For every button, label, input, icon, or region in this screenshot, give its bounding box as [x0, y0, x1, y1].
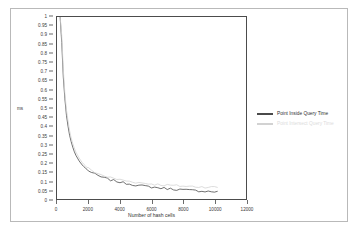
series-line — [60, 17, 218, 192]
plot-area — [56, 16, 247, 200]
y-tick-mark — [49, 62, 53, 63]
y-tick-label: 0.8 — [41, 50, 47, 55]
y-tick-mark — [49, 108, 53, 109]
y-tick-mark — [49, 34, 53, 35]
y-tick-label: 0.7 — [41, 69, 47, 74]
x-axis: 020004000600080001000012000 — [56, 200, 247, 222]
legend-item[interactable]: Point Inside Query Time — [257, 109, 349, 119]
x-tick-mark — [152, 200, 153, 204]
x-axis-title: Number of hash cells — [56, 212, 247, 218]
y-tick-mark — [49, 25, 53, 26]
y-tick-mark — [49, 117, 53, 118]
y-tick-label: 0.9 — [41, 32, 47, 37]
y-tick-label: 0.95 — [38, 23, 47, 28]
y-tick-label: 0.15 — [38, 170, 47, 175]
x-tick-mark — [56, 200, 57, 204]
x-tick-mark — [120, 200, 121, 204]
chart-figure: 10.950.90.850.80.750.70.650.60.550.50.45… — [10, 8, 348, 222]
y-tick-mark — [49, 52, 53, 53]
x-tick-mark — [247, 200, 248, 204]
y-tick-label: 0.55 — [38, 96, 47, 101]
y-tick-label: 0.05 — [38, 188, 47, 193]
legend-swatch-line-icon — [257, 113, 273, 114]
y-tick-mark — [49, 89, 53, 90]
legend-label: Point Inside Query Time — [277, 111, 328, 117]
y-tick-mark — [49, 200, 53, 201]
series-line — [60, 17, 218, 188]
y-tick-mark — [49, 135, 53, 136]
y-tick-mark — [49, 154, 53, 155]
y-tick-label: 1 — [44, 14, 47, 19]
y-tick-label: 0.35 — [38, 133, 47, 138]
y-tick-label: 0.65 — [38, 78, 47, 83]
y-tick-label: 0.1 — [41, 179, 47, 184]
y-tick-mark — [49, 98, 53, 99]
legend-label: Point Intersect Query Time — [277, 121, 334, 127]
y-tick-label: 0.85 — [38, 41, 47, 46]
y-tick-mark — [49, 172, 53, 173]
y-tick-mark — [49, 16, 53, 17]
x-tick-mark — [215, 200, 216, 204]
x-tick-mark — [183, 200, 184, 204]
y-tick-mark — [49, 43, 53, 44]
y-tick-mark — [49, 181, 53, 182]
y-tick-mark — [49, 144, 53, 145]
y-tick-label: 0.6 — [41, 87, 47, 92]
chart-legend: Point Inside Query TimePoint Intersect Q… — [257, 109, 349, 129]
y-tick-mark — [49, 126, 53, 127]
y-tick-mark — [49, 71, 53, 72]
plot-canvas — [57, 17, 246, 199]
y-tick-label: 0.45 — [38, 115, 47, 120]
y-axis-title: ms — [17, 106, 23, 111]
y-tick-label: 0.5 — [41, 106, 47, 111]
y-tick-label: 0.75 — [38, 60, 47, 65]
y-tick-label: 0.3 — [41, 142, 47, 147]
y-tick-label: 0.2 — [41, 161, 47, 166]
y-tick-label: 0 — [44, 198, 47, 203]
x-tick-mark — [88, 200, 89, 204]
legend-item[interactable]: Point Intersect Query Time — [257, 119, 349, 129]
legend-swatch-line-icon — [257, 123, 273, 124]
y-tick-label: 0.4 — [41, 124, 47, 129]
y-tick-mark — [49, 80, 53, 81]
y-tick-mark — [49, 163, 53, 164]
y-tick-mark — [49, 190, 53, 191]
y-tick-label: 0.25 — [38, 152, 47, 157]
